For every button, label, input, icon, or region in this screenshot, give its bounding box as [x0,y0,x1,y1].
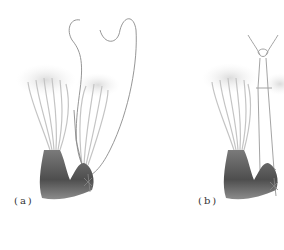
papillary-muscle [224,150,278,199]
suture-loops [69,19,136,176]
panel-a: (a) [0,0,142,250]
papillary-muscle [40,150,94,199]
chordae-illustration-a [0,0,142,250]
panel-label-a: (a) [14,195,34,206]
panel-label-b: (b) [198,195,218,206]
leaflet-left [202,63,258,93]
suture-frame [248,35,278,170]
chordae-illustration-b [142,0,284,250]
panel-b: (b) [142,0,284,250]
leaflet-right [76,73,120,97]
